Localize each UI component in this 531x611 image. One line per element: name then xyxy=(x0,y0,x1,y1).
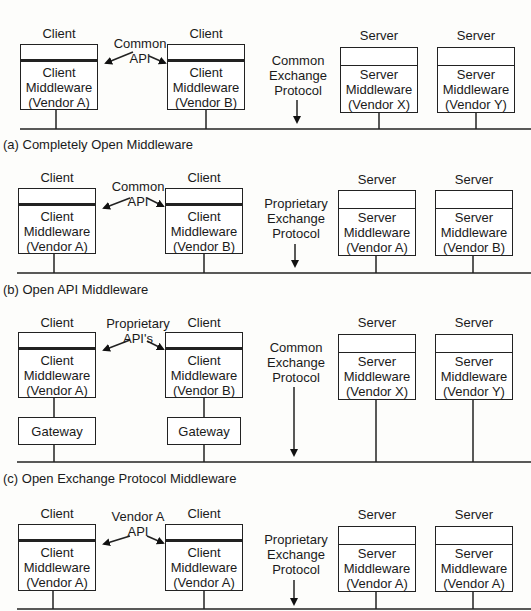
gateway-box: Gateway xyxy=(167,417,241,445)
server-app-layer xyxy=(339,191,415,209)
client-middleware-box: Client Middleware (Vendor A) xyxy=(18,188,96,254)
server-title: Server xyxy=(435,507,513,522)
box-line: Client xyxy=(187,209,220,224)
box-line: (Vendor A) xyxy=(26,239,87,254)
client-title: Client xyxy=(165,170,243,185)
client-title: Client xyxy=(18,315,96,330)
client-title: Client xyxy=(20,26,98,41)
server-middleware-box: Server Middleware (Vendor X) xyxy=(338,334,416,400)
box-line: (Vendor Y) xyxy=(443,384,505,399)
panel-caption: (c) Open Exchange Protocol Middleware xyxy=(3,471,236,486)
box-line: Middleware xyxy=(441,369,507,384)
box-line: Middleware xyxy=(24,560,90,575)
api-label: Vendor AAPI xyxy=(102,509,174,539)
server-title: Server xyxy=(437,28,515,43)
client-app-layer xyxy=(166,525,242,542)
client-middleware-box: Client Middleware (Vendor B) xyxy=(165,188,243,254)
server-middleware-box: Server Middleware (Vendor A) xyxy=(435,526,513,592)
server-app-layer xyxy=(339,527,415,545)
client-app-layer xyxy=(19,525,95,542)
client-app-layer xyxy=(166,189,242,206)
client-title: Client xyxy=(165,315,243,330)
box-line: Middleware xyxy=(171,224,237,239)
server-app-layer xyxy=(436,527,512,545)
server-title: Server xyxy=(435,172,513,187)
box-line: Server xyxy=(360,67,398,82)
client-app-layer xyxy=(19,333,95,350)
box-line: Middleware xyxy=(24,224,90,239)
client-middleware-box: Client Middleware (Vendor A) xyxy=(20,44,98,110)
box-line: Middleware xyxy=(26,80,92,95)
client-middleware-box: Client Middleware (Vendor A) xyxy=(18,524,96,591)
server-middleware-box: Server Middleware (Vendor Y) xyxy=(435,334,513,400)
box-line: Middleware xyxy=(171,560,237,575)
box-line: Client xyxy=(40,545,73,560)
box-line: Client xyxy=(42,65,75,80)
api-label: CommonAPI xyxy=(106,179,170,209)
box-line: Middleware xyxy=(441,561,507,576)
client-app-layer xyxy=(21,45,97,62)
box-line: (Vendor X) xyxy=(348,97,410,112)
client-middleware-box: Client Middleware (Vendor B) xyxy=(167,44,245,110)
box-line: (Vendor A) xyxy=(443,576,504,591)
server-app-layer xyxy=(341,48,417,66)
server-title: Server xyxy=(435,315,513,330)
box-line: (Vendor B) xyxy=(173,383,235,398)
box-line: Server xyxy=(457,67,495,82)
gateway-box: Gateway xyxy=(18,417,96,445)
box-line: Middleware xyxy=(441,225,507,240)
client-title: Client xyxy=(165,506,243,521)
api-label: CommonAPI xyxy=(108,36,172,66)
box-line: Client xyxy=(187,353,220,368)
box-line: (Vendor Y) xyxy=(445,97,507,112)
client-app-layer xyxy=(166,333,242,350)
box-line: Middleware xyxy=(344,369,410,384)
server-middleware-box: Server Middleware (Vendor A) xyxy=(338,190,416,256)
server-middleware-box: Server Middleware (Vendor Y) xyxy=(437,47,515,113)
box-line: Server xyxy=(455,210,493,225)
box-line: (Vendor B) xyxy=(173,239,235,254)
box-line: (Vendor A) xyxy=(26,383,87,398)
server-title: Server xyxy=(338,172,416,187)
box-line: (Vendor A) xyxy=(173,575,234,590)
box-line: (Vendor A) xyxy=(28,95,89,110)
client-title: Client xyxy=(18,506,96,521)
box-line: (Vendor A) xyxy=(346,240,407,255)
client-middleware-box: Client Middleware (Vendor A) xyxy=(165,524,243,591)
box-line: Middleware xyxy=(173,80,239,95)
box-line: Middleware xyxy=(346,82,412,97)
box-line: Client xyxy=(40,209,73,224)
client-app-layer xyxy=(168,45,244,62)
box-line: (Vendor A) xyxy=(346,576,407,591)
box-line: Middleware xyxy=(344,561,410,576)
server-title: Server xyxy=(340,28,418,43)
protocol-label: CommonExchangeProtocol xyxy=(262,53,334,98)
protocol-label: ProprietaryExchangeProtocol xyxy=(258,532,334,577)
client-middleware-box: Client Middleware (Vendor B) xyxy=(165,332,243,398)
panel-caption: (a) Completely Open Middleware xyxy=(3,137,193,152)
box-line: Server xyxy=(358,546,396,561)
client-middleware-box: Client Middleware (Vendor A) xyxy=(18,332,96,398)
box-line: (Vendor B) xyxy=(175,95,237,110)
client-app-layer xyxy=(19,189,95,206)
panel-caption: (b) Open API Middleware xyxy=(3,282,148,297)
box-line: Server xyxy=(455,546,493,561)
box-line: (Vendor X) xyxy=(346,384,408,399)
box-line: Server xyxy=(358,210,396,225)
box-line: Middleware xyxy=(24,368,90,383)
box-line: (Vendor A) xyxy=(26,575,87,590)
server-app-layer xyxy=(436,335,512,353)
box-line: Middleware xyxy=(344,225,410,240)
server-middleware-box: Server Middleware (Vendor X) xyxy=(340,47,418,113)
server-title: Server xyxy=(338,507,416,522)
box-line: (Vendor B) xyxy=(443,240,505,255)
protocol-label: ProprietaryExchangeProtocol xyxy=(258,196,334,241)
box-line: Client xyxy=(187,545,220,560)
server-app-layer xyxy=(339,335,415,353)
box-line: Client xyxy=(189,65,222,80)
box-line: Middleware xyxy=(443,82,509,97)
box-line: Server xyxy=(358,354,396,369)
server-title: Server xyxy=(338,315,416,330)
server-middleware-box: Server Middleware (Vendor A) xyxy=(338,526,416,592)
client-title: Client xyxy=(167,26,245,41)
